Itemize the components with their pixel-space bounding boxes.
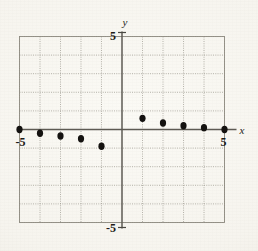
- data-point: [78, 135, 84, 142]
- data-point: [201, 124, 207, 131]
- data-point: [139, 115, 145, 122]
- scatter-plot-figure: x y 5 -5 -5 5: [0, 0, 258, 251]
- x-axis-label: x: [239, 124, 245, 136]
- data-point: [180, 122, 186, 129]
- plot-canvas: x y 5 -5 -5 5: [0, 0, 258, 251]
- x-axis-min-tick-label: -5: [16, 135, 26, 149]
- data-point: [221, 126, 227, 133]
- data-point: [37, 130, 43, 137]
- x-axis-max-tick-label: 5: [221, 135, 227, 149]
- y-axis-max-tick-label: 5: [110, 29, 116, 43]
- y-axis-min-tick-label: -5: [106, 221, 116, 235]
- data-point: [16, 126, 22, 133]
- data-point: [57, 132, 63, 139]
- y-axis-label: y: [122, 16, 128, 28]
- data-point: [98, 143, 104, 150]
- data-point: [160, 119, 166, 126]
